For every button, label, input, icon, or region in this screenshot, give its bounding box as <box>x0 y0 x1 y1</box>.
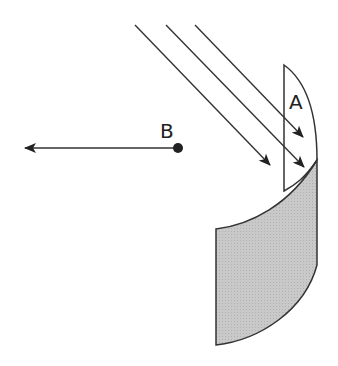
diagram-canvas: A B <box>0 0 338 366</box>
point-b <box>173 143 183 153</box>
label-b: B <box>160 119 174 143</box>
shaded-body <box>216 160 317 345</box>
incident-rays <box>135 25 304 167</box>
ray-1 <box>135 25 270 165</box>
ray-3 <box>195 25 303 137</box>
label-a: A <box>289 90 303 114</box>
